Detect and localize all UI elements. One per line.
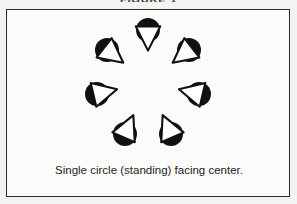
dancer-symbol [85,82,117,107]
figure-title: FIGURE 1 [0,0,297,2]
formation-diagram-svg [7,10,291,162]
dancer-symbol [136,18,160,51]
dancer-symbol [95,38,123,63]
dancer-symbol [112,115,137,146]
dancer-body-triangle [136,26,160,50]
dancer-symbol-group [85,18,211,146]
figure-caption: Single circle (standing) facing center. [7,162,291,178]
dancer-symbol [159,115,184,146]
formation-diagram [7,10,291,162]
figure-frame: Single circle (standing) facing center. [6,9,290,197]
dancer-symbol [173,38,201,63]
dancer-symbol [179,82,211,107]
